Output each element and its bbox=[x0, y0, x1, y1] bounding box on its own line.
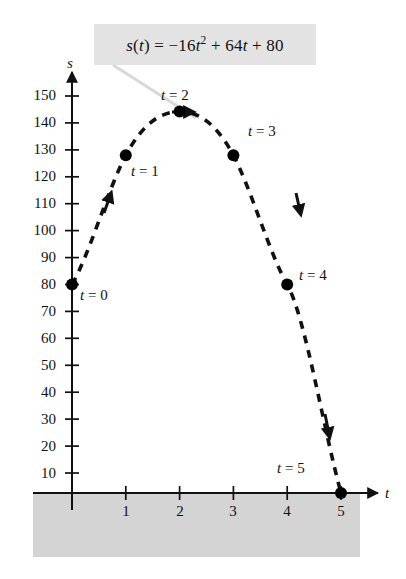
y-tick-label-120: 120 bbox=[22, 169, 56, 184]
y-axis-label: s bbox=[67, 56, 73, 71]
y-tick-label-20: 20 bbox=[22, 439, 56, 454]
point-annotation-t5: t = 5 bbox=[277, 461, 305, 476]
parabola-curve bbox=[72, 112, 341, 493]
figure-container: s(t) = −16t2 + 64t + 80 s t 150 140 130 … bbox=[0, 0, 406, 579]
data-point-t5 bbox=[335, 487, 347, 499]
point-annotation-t3: t = 3 bbox=[248, 124, 276, 139]
point-annotation-t1: t = 1 bbox=[131, 164, 159, 179]
y-tick-label-10: 10 bbox=[22, 466, 56, 481]
data-point-t3 bbox=[227, 149, 239, 161]
data-point-t1 bbox=[120, 149, 132, 161]
y-tick-label-80: 80 bbox=[22, 277, 56, 292]
y-tick-label-70: 70 bbox=[22, 304, 56, 319]
curve-direction-arrow-down bbox=[296, 193, 300, 211]
y-tick-label-50: 50 bbox=[22, 358, 56, 373]
equation-callout: s(t) = −16t2 + 64t + 80 bbox=[94, 24, 316, 65]
y-tick-label-60: 60 bbox=[22, 331, 56, 346]
x-axis-label: t bbox=[385, 486, 389, 501]
y-tick-label-110: 110 bbox=[22, 196, 56, 211]
y-tick-label-90: 90 bbox=[22, 250, 56, 265]
x-tick-label-2: 2 bbox=[170, 504, 190, 519]
x-tick-label-4: 4 bbox=[277, 504, 297, 519]
x-tick-label-5: 5 bbox=[331, 504, 351, 519]
y-tick-label-100: 100 bbox=[22, 223, 56, 238]
equation-text: s(t) = −16t2 + 64t + 80 bbox=[126, 34, 283, 56]
y-tick-label-40: 40 bbox=[22, 385, 56, 400]
data-point-t4 bbox=[281, 279, 293, 291]
y-tick-label-130: 130 bbox=[22, 142, 56, 157]
ground-band bbox=[33, 493, 360, 557]
x-tick-label-3: 3 bbox=[223, 504, 243, 519]
point-annotation-t4: t = 4 bbox=[299, 268, 327, 283]
y-tick-label-150: 150 bbox=[22, 88, 56, 103]
parabola-plot bbox=[0, 0, 406, 579]
data-point-t2 bbox=[174, 106, 186, 118]
y-tick-label-30: 30 bbox=[22, 412, 56, 427]
data-point-t0 bbox=[66, 279, 78, 291]
x-tick-label-1: 1 bbox=[116, 504, 136, 519]
point-annotation-t2: t = 2 bbox=[161, 88, 189, 103]
y-tick-label-140: 140 bbox=[22, 115, 56, 130]
point-annotation-t0: t = 0 bbox=[80, 288, 108, 303]
